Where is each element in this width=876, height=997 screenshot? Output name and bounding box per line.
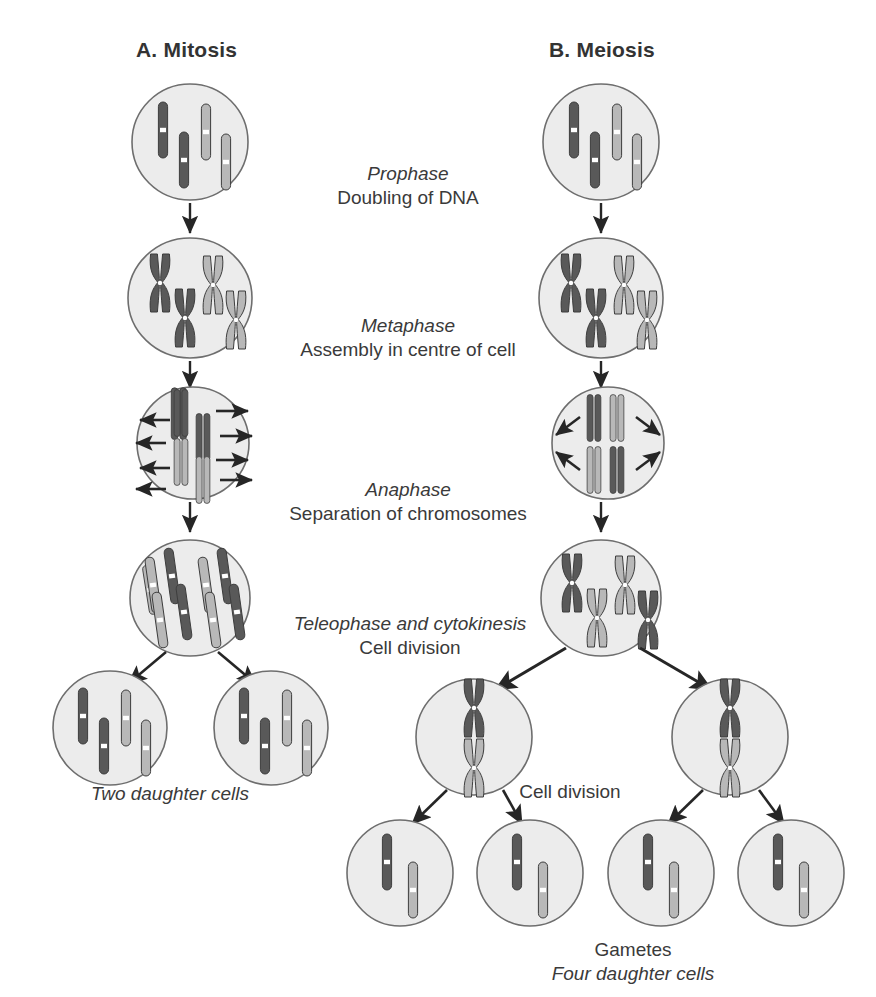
arrow-secondary1-to-gamete-1 — [412, 790, 447, 824]
caption-two-daughter-cells-text: Two daughter cells — [20, 782, 320, 806]
arrow-meiosis-anaphase-lower-right — [636, 452, 660, 470]
phase-name-anaphase: Anaphase — [248, 478, 568, 502]
arrow-meiosis-anaphase-upper-right — [636, 417, 660, 435]
cell-gamete-4 — [738, 820, 844, 926]
arrow-meiosis-anaphase-upper-left — [556, 417, 580, 435]
caption-two-daughter-cells: Two daughter cells — [20, 782, 320, 806]
phase-label-anaphase: Anaphase Separation of chromosomes — [248, 478, 568, 526]
arrow-secondary2-to-gamete-3 — [668, 790, 703, 824]
cell-mitosis-daughter-1 — [53, 671, 167, 785]
cell-mitosis-metaphase — [128, 238, 252, 358]
cell-meiosis-secondary-2 — [672, 679, 788, 797]
caption-gametes: Gametes Four daughter cells — [503, 938, 763, 986]
arrow-secondary2-to-gamete-4 — [759, 790, 784, 824]
phase-desc-metaphase: Assembly in centre of cell — [248, 338, 568, 362]
phase-name-prophase: Prophase — [248, 162, 568, 186]
cell-meiosis-anaphase — [552, 387, 664, 499]
caption-gametes-text: Gametes — [503, 938, 763, 962]
cell-mitosis-anaphase — [136, 387, 252, 503]
mitosis-meiosis-diagram: A. Mitosis B. Meiosis Prophase Doubling … — [0, 0, 876, 997]
phase-label-prophase: Prophase Doubling of DNA — [248, 162, 568, 210]
cell-mitosis-daughter-2 — [214, 671, 328, 785]
phase-desc-prophase: Doubling of DNA — [248, 186, 568, 210]
cell-gamete-1 — [347, 820, 453, 926]
caption-cell-division-text: Cell division — [480, 780, 660, 804]
arrow-meiosis-anaphase-lower-left — [556, 452, 580, 470]
cell-mitosis-telophase — [130, 540, 250, 656]
phase-desc-telophase: Cell division — [248, 636, 572, 660]
cell-gamete-2 — [477, 820, 583, 926]
cell-gamete-3 — [608, 820, 714, 926]
cell-mitosis-prophase — [132, 84, 248, 200]
caption-cell-division-meiosis: Cell division — [480, 780, 660, 804]
phase-label-metaphase: Metaphase Assembly in centre of cell — [248, 314, 568, 362]
arrow-mitosis-to-daughter-1 — [128, 652, 166, 684]
caption-four-daughter-cells-text: Four daughter cells — [503, 962, 763, 986]
column-title-mitosis: A. Mitosis — [136, 38, 237, 62]
phase-name-metaphase: Metaphase — [248, 314, 568, 338]
column-title-meiosis: B. Meiosis — [549, 38, 655, 62]
phase-label-telophase: Teleophase and cytokinesis Cell division — [248, 612, 572, 660]
arrow-meiosis-to-secondary-2 — [640, 648, 712, 690]
phase-name-telophase: Teleophase and cytokinesis — [248, 612, 572, 636]
phase-desc-anaphase: Separation of chromosomes — [248, 502, 568, 526]
